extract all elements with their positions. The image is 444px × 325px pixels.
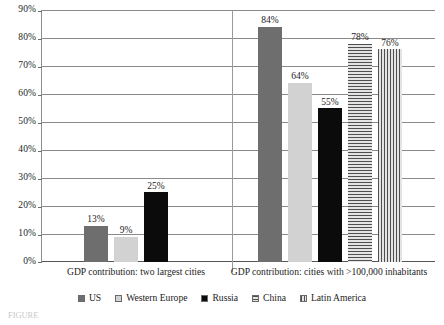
- bar-us-group1[interactable]: 13%: [84, 226, 108, 262]
- category-label-cities-100000: GDP contribution: cities with >100,000 i…: [231, 264, 427, 280]
- bar-russia-group1[interactable]: 25%: [144, 192, 168, 262]
- bar-value-label: 13%: [87, 215, 104, 225]
- legend-item-russia[interactable]: Russia: [201, 293, 238, 303]
- bar-western-europe-group2[interactable]: 64%: [288, 83, 312, 262]
- legend-label: China: [263, 293, 286, 303]
- bar-value-label: 25%: [147, 182, 164, 192]
- figure-bar-chart: 0% 10% 20% 30% 40% 50% 60% 70% 80% 90%: [0, 0, 444, 325]
- legend-label: Russia: [212, 293, 238, 303]
- chart-plot-wrapper: 0% 10% 20% 30% 40% 50% 60% 70% 80% 90%: [0, 0, 444, 292]
- figure-caption-strip: FIGURE: [0, 312, 444, 325]
- chart-legend: US Western Europe Russia China Latin Ame…: [0, 288, 444, 308]
- bar-latin-america-group2[interactable]: 76%: [378, 49, 402, 262]
- x-axis: GDP contribution: two largest cities GDP…: [41, 264, 435, 280]
- bar-western-europe-group1[interactable]: 9%: [114, 237, 138, 262]
- legend-swatch-icon: [78, 295, 85, 302]
- y-tick-label: 30%: [18, 173, 36, 183]
- y-tick-label: 90%: [18, 5, 36, 15]
- bar-value-label: 9%: [120, 226, 133, 236]
- bar-value-label: 76%: [381, 39, 398, 49]
- y-tick-label: 60%: [18, 89, 36, 99]
- legend-label: US: [89, 293, 101, 303]
- figure-caption: FIGURE: [8, 312, 38, 322]
- legend-swatch-icon: [115, 295, 122, 302]
- legend-item-latin-america[interactable]: Latin America: [300, 293, 366, 303]
- y-tick-label: 70%: [18, 61, 36, 71]
- legend-label: Western Europe: [126, 293, 187, 303]
- bars-layer: 13% 9% 25% 84% 64% 55%: [42, 10, 435, 262]
- y-tick-label: 10%: [18, 229, 36, 239]
- legend-item-western-europe[interactable]: Western Europe: [115, 293, 187, 303]
- bar-value-label: 84%: [261, 16, 278, 26]
- legend-swatch-icon: [300, 295, 307, 302]
- bar-us-group2[interactable]: 84%: [258, 27, 282, 262]
- y-tick-label: 80%: [18, 33, 36, 43]
- plot-area: 13% 9% 25% 84% 64% 55%: [41, 10, 435, 262]
- y-axis: 0% 10% 20% 30% 40% 50% 60% 70% 80% 90%: [0, 0, 40, 272]
- bar-value-label: 78%: [351, 33, 368, 43]
- bar-value-label: 64%: [291, 72, 308, 82]
- legend-swatch-icon: [201, 295, 208, 302]
- bar-value-label: 55%: [321, 98, 338, 108]
- y-tick-label: 0%: [23, 257, 36, 267]
- bar-china-group2[interactable]: 78%: [348, 44, 372, 262]
- legend-swatch-icon: [252, 295, 259, 302]
- y-tick-label: 20%: [18, 201, 36, 211]
- bar-russia-group2[interactable]: 55%: [318, 108, 342, 262]
- y-tick-label: 40%: [18, 145, 36, 155]
- y-tick-label: 50%: [18, 117, 36, 127]
- category-label-two-largest-cities: GDP contribution: two largest cities: [67, 264, 205, 280]
- legend-item-us[interactable]: US: [78, 293, 101, 303]
- legend-item-china[interactable]: China: [252, 293, 286, 303]
- legend-label: Latin America: [311, 293, 366, 303]
